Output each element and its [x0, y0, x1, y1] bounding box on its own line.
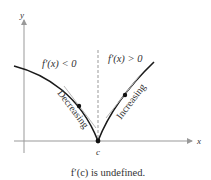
left-region-label: f′(x) < 0 — [42, 58, 77, 70]
point-c-label: c — [96, 147, 100, 157]
x-axis-label: x — [196, 136, 201, 146]
diagram-canvas: y x c f′(x) < 0 f′(x) > 0 Decreasing Inc… — [0, 0, 211, 180]
decreasing-label: Decreasing — [55, 88, 91, 131]
right-region-label: f′(x) > 0 — [108, 53, 143, 65]
y-axis-label: y — [19, 10, 24, 20]
decreasing-curve — [14, 66, 98, 141]
cusp-point-c — [96, 139, 101, 144]
caption: f′(c) is undefined. — [71, 167, 145, 179]
